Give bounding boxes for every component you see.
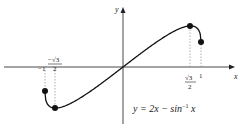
equation-label: y = 2x − sin−1 x xyxy=(132,103,196,114)
function-plot: y x −1 −√3 2 √3 2 1 y = 2x − sin−1 x xyxy=(0,0,241,126)
tick-neg-one: −1 xyxy=(38,65,46,73)
local-maximum-point xyxy=(187,23,193,29)
tick-neg-root3-denominator: 2 xyxy=(53,65,57,73)
tick-one: 1 xyxy=(199,72,203,80)
x-axis-arrow-icon xyxy=(229,65,235,70)
x-axis-label: x xyxy=(233,72,238,81)
local-minimum-point xyxy=(52,105,58,111)
tick-root3-denominator: 2 xyxy=(188,83,192,91)
y-axis-arrow-icon xyxy=(121,7,126,13)
right-endpoint xyxy=(198,39,204,45)
left-endpoint xyxy=(42,88,48,94)
tick-neg-root3-numerator: −√3 xyxy=(48,56,60,64)
y-axis-label: y xyxy=(114,5,119,14)
tick-root3-numerator: √3 xyxy=(185,74,193,82)
